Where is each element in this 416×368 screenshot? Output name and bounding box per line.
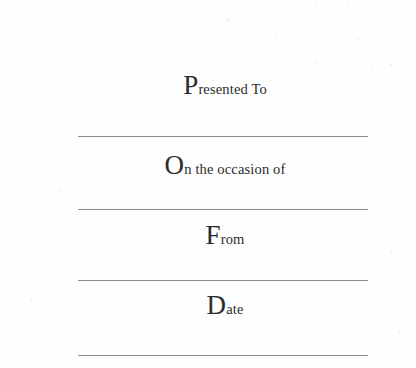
write-in-rule-date[interactable] (78, 355, 368, 356)
scan-speckle (390, 250, 392, 252)
scan-speckle (60, 190, 62, 192)
scan-speckle (372, 66, 374, 68)
field-label-date: Date (0, 292, 416, 319)
scan-speckle (314, 2, 316, 4)
scan-speckle (316, 62, 318, 64)
scan-speckle (357, 38, 359, 40)
field-label-remainder: resented To (198, 81, 266, 97)
field-label-remainder: ate (226, 301, 243, 317)
field-label-remainder: rom (221, 231, 245, 247)
field-label-remainder: n the occasion of (184, 161, 285, 177)
scan-speckle (274, 36, 276, 38)
presentation-page: Presented To On the occasion of From Dat… (0, 0, 416, 368)
field-label-on-the-occasion-of: On the occasion of (0, 152, 416, 179)
field-initial-letter: F (205, 220, 220, 250)
write-in-rule-on-the-occasion-of[interactable] (78, 209, 368, 210)
field-label-from: From (0, 222, 416, 249)
field-initial-letter: O (165, 150, 185, 180)
field-initial-letter: D (206, 290, 226, 320)
scan-speckle (398, 330, 400, 332)
field-initial-letter: P (183, 70, 198, 100)
scan-speckle (390, 64, 392, 66)
write-in-rule-from[interactable] (78, 280, 368, 281)
field-label-presented-to: Presented To (0, 72, 416, 99)
write-in-rule-presented-to[interactable] (78, 136, 368, 137)
scan-speckle (348, 4, 350, 6)
scan-speckle (226, 19, 229, 22)
